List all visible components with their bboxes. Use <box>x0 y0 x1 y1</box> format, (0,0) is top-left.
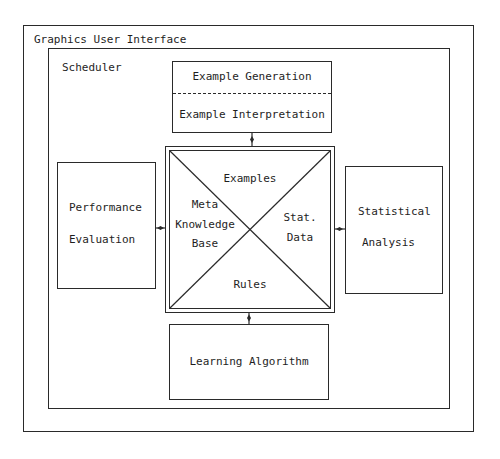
kb-stat-label: Stat. <box>270 211 330 224</box>
connector-bottom <box>247 313 251 324</box>
statistical-label: Statistical <box>358 205 431 218</box>
kb-knowledge-label: Knowledge <box>170 218 240 231</box>
learning-algorithm-label: Learning Algorithm <box>169 355 329 368</box>
connector-right <box>335 227 345 231</box>
kb-base-label: Base <box>170 237 240 250</box>
performance-label: Performance <box>69 201 142 214</box>
statistical-analysis-box <box>345 166 443 294</box>
evaluation-label: Evaluation <box>69 233 135 246</box>
connector-top <box>250 133 254 146</box>
kb-examples-label: Examples <box>200 172 300 185</box>
analysis-label: Analysis <box>362 236 415 249</box>
kb-rules-label: Rules <box>200 278 300 291</box>
connector-left <box>156 226 165 230</box>
performance-evaluation-box <box>57 162 156 289</box>
kb-data-label: Data <box>270 231 330 244</box>
kb-meta-label: Meta <box>170 198 240 211</box>
